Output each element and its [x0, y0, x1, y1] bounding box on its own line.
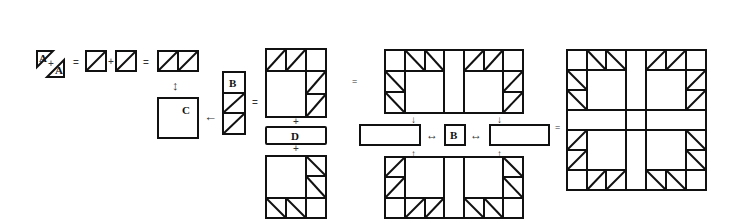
- plus-sign: +: [108, 56, 114, 67]
- label-a-top: A: [39, 52, 47, 64]
- left-arrow: ←: [204, 109, 217, 124]
- equals-sign: =: [73, 57, 79, 68]
- plus-sign: +: [293, 143, 299, 154]
- plus-sign: +: [293, 116, 299, 127]
- label-a-bottom: A: [55, 64, 63, 76]
- down-arrow: ↓: [411, 114, 416, 125]
- bottom-half-block: [385, 157, 523, 218]
- hst-unit: [116, 51, 136, 71]
- square-c: C: [158, 98, 198, 138]
- corner-block-top: [266, 49, 326, 117]
- triangle-a-pair: A A +: [37, 51, 64, 77]
- side-strip-right: [490, 125, 549, 145]
- equals-sign: =: [352, 76, 357, 86]
- equals-sign: =: [252, 97, 258, 108]
- b-vertical-strip: B: [223, 72, 245, 134]
- center-square-b: B: [445, 125, 465, 145]
- top-half-block: [385, 50, 523, 113]
- vertical-swap-arrow: ↕: [172, 78, 179, 93]
- label-b: B: [229, 77, 237, 89]
- down-arrow: ↓: [497, 114, 502, 125]
- swap-arrow: ↔: [426, 128, 438, 142]
- equals-sign: =: [143, 57, 149, 68]
- label-b-center: B: [450, 129, 458, 141]
- two-unit-strip: [158, 51, 198, 71]
- label-d: D: [291, 130, 299, 142]
- label-c: C: [182, 104, 190, 116]
- plus-sign: +: [48, 58, 54, 69]
- completed-block: [567, 50, 706, 190]
- corner-block-bottom: [266, 156, 326, 218]
- swap-arrow: ↔: [470, 128, 482, 142]
- side-strip-left: [360, 125, 420, 145]
- quilt-assembly-diagram: A A + = + = ↕ C ← B =: [0, 0, 741, 223]
- hst-unit: [86, 51, 106, 71]
- equals-sign: =: [555, 122, 560, 132]
- d-strip: D: [266, 127, 326, 144]
